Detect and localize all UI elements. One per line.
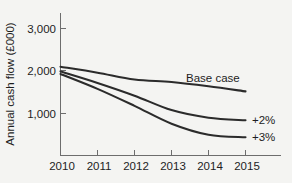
- x-tick-label-2013: 2013: [160, 160, 186, 172]
- x-tick-label-2011: 2011: [87, 160, 112, 172]
- y-axis-title: Annual cash flow (£000): [4, 22, 16, 146]
- x-tick-label-2015: 2015: [234, 160, 260, 172]
- chart-canvas: 3,000 2,000 1,000 2010 2011 2012 2013 20…: [0, 0, 292, 183]
- x-tick-label-2010: 2010: [49, 160, 75, 172]
- series-label-base-case: Base case: [186, 72, 240, 84]
- series-label-plus-3-percent: +3%: [252, 131, 275, 143]
- series-label-plus-2-percent: +2%: [252, 114, 275, 126]
- x-tick-label-2014: 2014: [197, 160, 223, 172]
- x-tick-label-2012: 2012: [123, 160, 149, 172]
- y-tick-label-2000: 2,000: [27, 65, 56, 77]
- y-tick-label-3000: 3,000: [27, 23, 56, 35]
- cash-flow-line-chart: 3,000 2,000 1,000 2010 2011 2012 2013 20…: [0, 0, 292, 183]
- y-tick-label-1000: 1,000: [27, 108, 56, 120]
